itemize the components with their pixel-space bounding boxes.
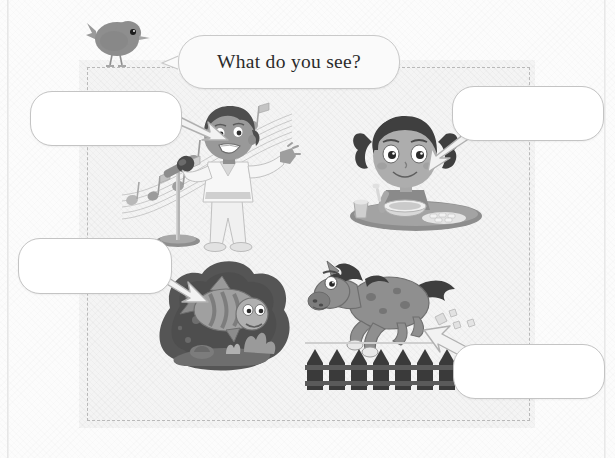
worksheet-page: What do you see? — [0, 0, 615, 458]
answer-box-4[interactable] — [453, 344, 605, 399]
answer-box-3[interactable] — [18, 238, 172, 294]
arrow-to-eating-girl — [418, 136, 474, 178]
answer-box-1[interactable] — [30, 91, 182, 146]
arrow-to-singing-boy — [176, 112, 236, 152]
answer-box-2[interactable] — [452, 86, 604, 141]
cup — [354, 200, 368, 218]
speech-bubble-text: What do you see? — [217, 51, 361, 73]
page-edge-left — [7, 0, 9, 458]
speech-bubble: What do you see? — [178, 35, 400, 89]
page-edge-right — [604, 0, 606, 458]
bowl — [384, 200, 426, 217]
food — [422, 212, 466, 224]
bird-illustration — [86, 13, 152, 68]
